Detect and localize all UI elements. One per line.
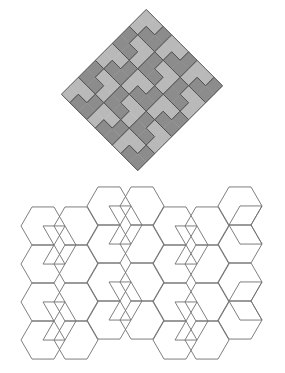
l-tromino-tiling	[61, 9, 223, 171]
chevron-line	[251, 282, 262, 320]
hexagon-chevron-tiling	[21, 187, 262, 359]
tiling-figure	[0, 0, 285, 373]
chevron-line	[251, 206, 262, 244]
